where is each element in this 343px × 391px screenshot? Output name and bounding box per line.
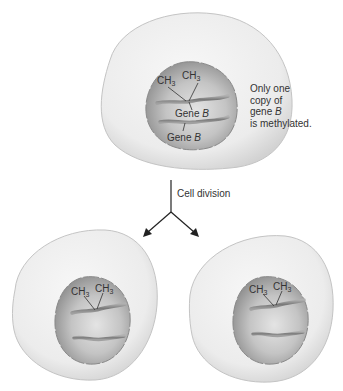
- methyl-label-2: CH3: [182, 70, 200, 82]
- right-methyl-label-2: CH3: [273, 281, 291, 293]
- daughter-cell-right: [189, 236, 333, 383]
- cell-division-label: Cell division: [177, 188, 230, 200]
- left-methyl-label-2: CH3: [95, 283, 113, 295]
- daughter-cell-left: [12, 230, 157, 380]
- right-methyl-label-1: CH3: [249, 284, 267, 296]
- gene-b-label-upper: Gene B: [175, 108, 209, 120]
- methylation-annotation: Only one copy of gene B is methylated.: [250, 83, 312, 129]
- diagram-canvas: [0, 0, 343, 391]
- left-methyl-label-1: CH3: [71, 286, 89, 298]
- gene-b-label-lower: Gene B: [167, 132, 201, 144]
- methyl-label-1: CH3: [157, 75, 175, 87]
